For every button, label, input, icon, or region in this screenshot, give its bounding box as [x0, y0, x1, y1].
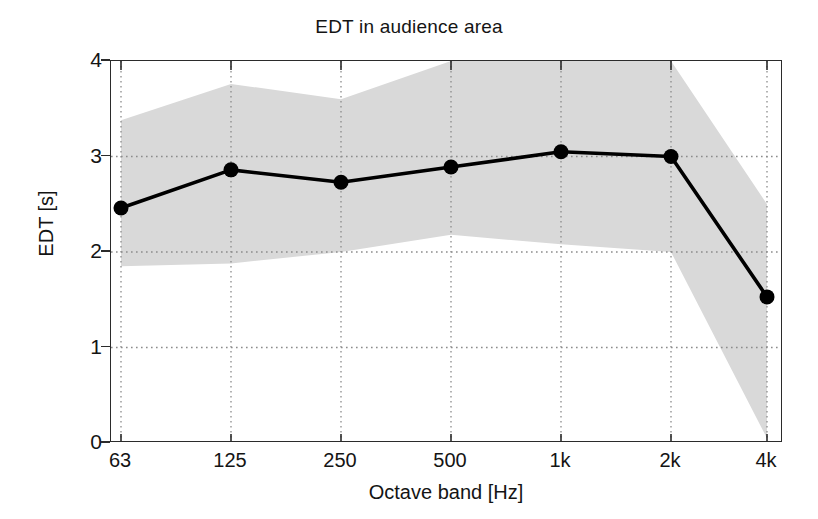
data-point: [444, 160, 459, 175]
y-tick-mark-4: [101, 59, 110, 61]
y-tick-label-4: 4: [68, 48, 102, 72]
data-point: [554, 144, 569, 159]
y-tick-mark-3: [101, 155, 110, 157]
y-tick-label-1: 1: [68, 335, 102, 359]
x-tick-label-4k: 4k: [731, 449, 801, 472]
plot-area: [110, 60, 782, 442]
data-point: [664, 149, 679, 164]
y-tick-mark-1: [101, 346, 110, 348]
x-tick-label-2k: 2k: [635, 449, 705, 472]
x-tick-label-125: 125: [195, 449, 265, 472]
data-point: [114, 201, 129, 216]
x-tick-label-63: 63: [85, 449, 155, 472]
y-tick-label-2: 2: [68, 239, 102, 263]
data-point: [334, 175, 349, 190]
y-tick-mark-0: [101, 441, 110, 443]
y-tick-label-3: 3: [68, 144, 102, 168]
x-tick-label-1k: 1k: [525, 449, 595, 472]
y-axis-label: EDT [s]: [35, 144, 58, 304]
data-point: [224, 162, 239, 177]
spread-band: [121, 61, 767, 438]
chart-figure: EDT in audience area EDT [s] 0 1 2 3 4 6…: [0, 0, 818, 519]
x-tick-label-500: 500: [415, 449, 485, 472]
chart-title: EDT in audience area: [0, 16, 818, 38]
plot-canvas: [111, 61, 782, 442]
data-point: [760, 289, 775, 304]
x-tick-label-250: 250: [305, 449, 375, 472]
y-tick-mark-2: [101, 250, 110, 252]
x-axis-label: Octave band [Hz]: [110, 481, 782, 504]
